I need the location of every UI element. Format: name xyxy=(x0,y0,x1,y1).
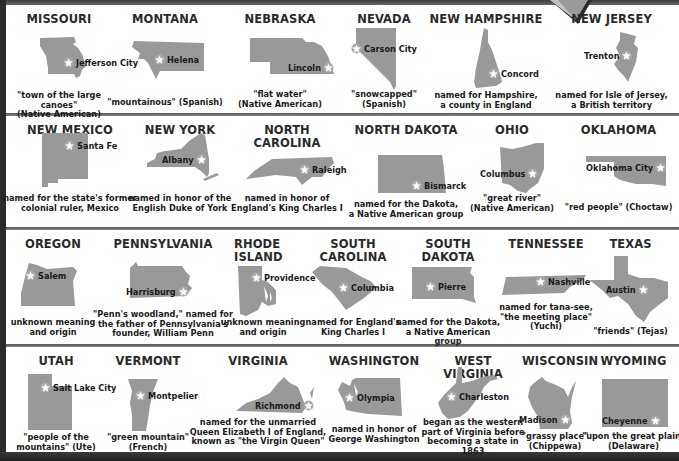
state-card-new-mexico: NEW MEXICO Santa Fe named for the state'… xyxy=(8,116,132,227)
name-origin: "people of the mountains" (Ute) xyxy=(2,433,110,452)
states-row-3: OREGON Salem unknown meaning and origin … xyxy=(8,230,679,344)
capital-star-icon xyxy=(251,272,262,283)
state-name: NORTH CAROLINA xyxy=(228,124,346,150)
name-origin: named for the state's former colonial ru… xyxy=(2,194,138,213)
state-name: UTAH xyxy=(8,355,104,368)
capital-star-icon xyxy=(178,286,189,297)
state-card-north-carolina: NORTH CAROLINA Raleigh named in honor of… xyxy=(228,116,346,227)
capital-star-icon xyxy=(299,164,310,175)
state-card-south-carolina: SOUTH CAROLINA Columbia named for Englan… xyxy=(308,230,398,344)
state-name: MONTANA xyxy=(110,13,220,26)
state-card-south-dakota: SOUTH DAKOTA Pierre named for the Dakota… xyxy=(398,230,498,344)
capital-star-icon xyxy=(425,281,436,292)
name-origin: "flat water" (Native American) xyxy=(214,90,346,109)
capital-label: Harrisburg xyxy=(126,286,189,297)
name-origin: "upon the great plain" (Delaware) xyxy=(578,432,679,451)
capital-label: Trenton xyxy=(584,50,632,61)
capital-star-icon xyxy=(135,390,146,401)
capital-star-icon xyxy=(650,415,661,426)
state-name: NEW JERSEY xyxy=(544,13,679,26)
capital-label: Albany xyxy=(162,154,207,165)
name-origin: named in honor of England's King Charles… xyxy=(222,194,352,213)
capital-star-icon xyxy=(488,68,499,79)
capital-label: Concord xyxy=(488,68,539,79)
capital-label: Austin xyxy=(606,284,649,295)
state-name: TEXAS xyxy=(594,238,667,251)
state-name: WYOMING xyxy=(588,355,679,368)
state-card-oklahoma: OKLAHOMA Oklahoma City "red people" (Cho… xyxy=(558,116,679,227)
state-card-utah: UTAH Salt Lake City "people of the mount… xyxy=(8,347,104,452)
capital-star-icon xyxy=(64,140,75,151)
name-origin: named for the Dakota, a Native American … xyxy=(392,318,504,347)
state-card-virginia: VIRGINIA Richmond named for the unmarrie… xyxy=(192,347,324,452)
name-origin: named for the unmarried Queen Elizabeth … xyxy=(186,418,330,447)
capital-label: Salem xyxy=(25,270,66,281)
capital-label: Columbia xyxy=(338,282,394,293)
name-origin: named in honor of George Washington xyxy=(318,425,430,444)
name-origin: named for the Dakota, a Native American … xyxy=(340,200,472,219)
state-card-pennsylvania: PENNSYLVANIA Harrisburg "Penn's woodland… xyxy=(98,230,228,344)
name-origin: named for England's King Charles I xyxy=(302,318,404,337)
state-name: NEW HAMPSHIRE xyxy=(428,13,544,26)
state-name: OKLAHOMA xyxy=(558,124,679,137)
name-origin: "mountainous" (Spanish) xyxy=(104,98,226,108)
name-origin: named for Hampshire, a county in England xyxy=(422,91,550,110)
state-name: PENNSYLVANIA xyxy=(98,238,228,251)
states-row-1: MISSOURI Jefferson City "town of the lar… xyxy=(8,5,679,113)
name-origin: "great river" (Native American) xyxy=(460,194,564,213)
state-card-ohio: OHIO Columbus "great river" (Native Amer… xyxy=(466,116,558,227)
capital-label: Oklahoma City xyxy=(586,162,666,173)
capital-label: Montpelier xyxy=(135,390,198,401)
capital-label: Helena xyxy=(154,54,199,65)
name-origin: "friends" (Tejas) xyxy=(580,327,679,337)
state-name: OREGON xyxy=(8,238,98,251)
state-card-washington: WASHINGTON Olympia named in honor of Geo… xyxy=(324,347,424,452)
states-row-2: NEW MEXICO Santa Fe named for the state'… xyxy=(8,116,679,227)
state-name: VERMONT xyxy=(104,355,192,368)
state-names-reference-page: MISSOURI Jefferson City "town of the lar… xyxy=(0,0,679,461)
state-card-new-york: NEW YORK Albany named in honor of the En… xyxy=(132,116,228,227)
capital-star-icon xyxy=(63,57,74,68)
capital-label: Pierre xyxy=(425,281,466,292)
name-origin: "Penn's woodland," named for the father … xyxy=(92,310,234,339)
state-name: VIRGINIA xyxy=(192,355,324,368)
capital-label: Raleigh xyxy=(299,164,347,175)
new-hampshire-map-icon xyxy=(472,28,502,90)
nevada-map-icon xyxy=(354,26,398,90)
capital-label: Charleston xyxy=(446,391,509,402)
capital-star-icon xyxy=(446,391,457,402)
capital-label: Lincoln xyxy=(288,62,334,73)
state-name: WASHINGTON xyxy=(324,355,424,368)
state-name: TENNESSEE xyxy=(498,238,594,251)
name-origin: named for Isle of Jersey, a British terr… xyxy=(538,91,679,110)
capital-label: Santa Fe xyxy=(64,140,117,151)
state-card-rhode-island: RHODE ISLAND Providence unknown meaning … xyxy=(228,230,308,344)
capital-label: Richmond xyxy=(255,400,314,411)
state-name: SOUTH DAKOTA xyxy=(398,238,498,264)
state-name: MISSOURI xyxy=(8,13,110,26)
state-card-nebraska: NEBRASKA Lincoln "flat water" (Native Am… xyxy=(220,5,340,113)
capital-star-icon xyxy=(535,276,546,287)
capital-star-icon xyxy=(323,62,334,73)
page-bottom-border xyxy=(0,452,679,461)
capital-star-icon xyxy=(303,400,314,411)
capital-star-icon xyxy=(338,282,349,293)
state-name: NEBRASKA xyxy=(220,13,340,26)
capital-star-icon xyxy=(527,168,538,179)
state-name: RHODE ISLAND xyxy=(234,238,308,264)
state-card-nevada: NEVADA Carson City "snowcapped" (Spanish… xyxy=(340,5,428,113)
capital-star-icon xyxy=(655,162,666,173)
capital-star-icon xyxy=(154,54,165,65)
state-card-montana: MONTANA Helena "mountainous" (Spanish) xyxy=(110,5,220,113)
capital-star-icon xyxy=(351,43,362,54)
page-left-border xyxy=(0,0,6,461)
name-origin: "snowcapped" (Spanish) xyxy=(334,90,434,109)
state-card-vermont: VERMONT Montpelier "green mountain" (Fre… xyxy=(104,347,192,452)
name-origin: unknown meaning and origin xyxy=(2,318,104,337)
capital-label: Columbus xyxy=(480,168,538,179)
capital-label: Olympia xyxy=(344,392,395,403)
state-name: OHIO xyxy=(466,124,558,137)
state-card-wyoming: WYOMING Cheyenne "upon the great plain" … xyxy=(588,347,679,452)
capital-star-icon xyxy=(25,270,36,281)
capital-label: Nashville xyxy=(535,276,590,287)
